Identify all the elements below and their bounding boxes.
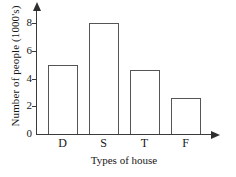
bar-chart: Number of people (1000's) 02468 DSTF Typ…	[0, 0, 236, 177]
x-axis-arrow-icon	[211, 131, 220, 139]
y-axis-tick-label: 0	[18, 128, 32, 139]
bar	[48, 65, 78, 134]
y-axis-tick-label: 4	[18, 73, 32, 84]
y-axis-tick-label: 2	[18, 100, 32, 111]
y-axis-arrow-icon	[33, 2, 41, 11]
bar	[89, 23, 119, 134]
y-axis-tick-mark	[32, 23, 37, 24]
y-axis-tick-label: 8	[18, 17, 32, 28]
y-axis-tick-mark	[32, 79, 37, 80]
x-axis-category-label: D	[50, 136, 76, 150]
y-axis-tick-label: 6	[18, 45, 32, 56]
plot-area	[36, 10, 200, 135]
x-axis-category-label: S	[91, 136, 117, 150]
y-axis-tick-mark	[32, 51, 37, 52]
x-axis-category-label: T	[132, 136, 158, 150]
x-axis-category-labels: DSTF	[36, 136, 200, 152]
x-axis-title: Types of house	[36, 154, 212, 166]
y-axis-tick-mark	[32, 106, 37, 107]
x-axis-category-label: F	[173, 136, 199, 150]
bar	[171, 98, 201, 134]
x-axis-line	[36, 134, 212, 135]
y-axis-tick-labels: 02468	[16, 0, 32, 177]
bar	[130, 70, 160, 134]
y-axis-line	[36, 10, 37, 135]
